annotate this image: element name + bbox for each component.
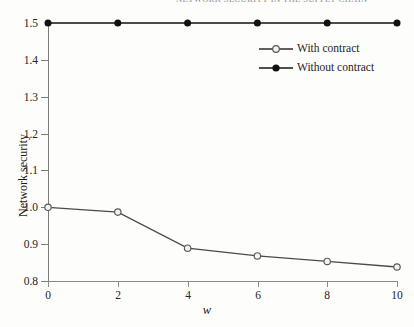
data-point	[394, 264, 400, 270]
data-point	[184, 245, 190, 251]
data-point	[254, 20, 261, 27]
data-point	[45, 20, 52, 27]
legend-label-without-contract: Without contract	[297, 58, 374, 77]
data-point	[114, 20, 121, 27]
legend-item-with-contract[interactable]: With contract	[259, 39, 374, 58]
figure-container: NETWORK SECURITY IN THE SUPPLY CHAIN 1.5…	[0, 0, 414, 327]
data-point	[394, 20, 401, 27]
data-point	[254, 253, 260, 259]
legend: With contract Without contract	[259, 39, 374, 77]
data-point	[115, 209, 121, 215]
series-line-0	[48, 207, 397, 267]
legend-item-without-contract[interactable]: Without contract	[259, 58, 374, 77]
open-circle-icon	[259, 43, 293, 55]
data-point	[324, 20, 331, 27]
filled-circle-icon	[259, 62, 293, 74]
data-point	[45, 204, 51, 210]
legend-label-with-contract: With contract	[297, 39, 359, 58]
data-point	[324, 258, 330, 264]
data-point	[184, 20, 191, 27]
